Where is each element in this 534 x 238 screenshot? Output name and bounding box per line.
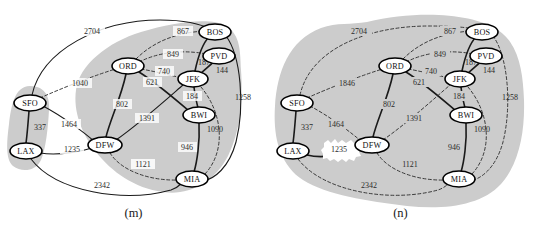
- weight-1258: 1258: [502, 93, 518, 102]
- svg-text:867: 867: [444, 27, 456, 36]
- cluster-all: [275, 15, 524, 208]
- svg-text:144: 144: [216, 66, 228, 75]
- weight-740: 740: [422, 66, 441, 76]
- svg-text:1235: 1235: [331, 145, 347, 154]
- node-JFK[interactable]: JFK: [178, 71, 208, 87]
- weight-337: 337: [34, 123, 46, 132]
- svg-text:1235: 1235: [64, 145, 80, 154]
- node-ORD[interactable]: ORD: [112, 58, 144, 74]
- svg-text:BOS: BOS: [207, 28, 224, 37]
- weight-621: 621: [410, 77, 429, 87]
- node-LAX[interactable]: LAX: [277, 143, 309, 159]
- node-JFK[interactable]: JFK: [445, 71, 475, 87]
- node-DFW[interactable]: DFW: [355, 137, 389, 153]
- weight-1391: 1391: [402, 113, 426, 123]
- svg-text:1391: 1391: [406, 114, 422, 123]
- graph-n: 2704 867 849 1846 740 621 187 144 184 12…: [267, 0, 534, 238]
- weight-2342: 2342: [356, 179, 382, 190]
- weight-1391: 1391: [135, 113, 159, 123]
- weight-802: 802: [113, 99, 132, 109]
- graph-m: 2704 867 849 1040 740 621 187 144 184 12…: [0, 0, 267, 238]
- weight-946: 946: [445, 142, 464, 152]
- node-DFW[interactable]: DFW: [88, 137, 122, 153]
- svg-text:849: 849: [434, 50, 446, 59]
- weight-184: 184: [450, 91, 469, 101]
- weight-1464: 1464: [324, 119, 348, 129]
- node-MIA[interactable]: MIA: [443, 171, 475, 187]
- weight-1090: 1090: [474, 125, 490, 134]
- svg-text:184: 184: [453, 92, 465, 101]
- weight-849: 849: [163, 49, 183, 59]
- weight-144: 144: [216, 66, 228, 75]
- node-LAX[interactable]: LAX: [10, 143, 42, 159]
- weight-2342: 2342: [89, 179, 115, 190]
- svg-text:849: 849: [167, 50, 179, 59]
- svg-text:1464: 1464: [328, 120, 344, 129]
- weight-621: 621: [143, 77, 162, 87]
- svg-text:1121: 1121: [135, 160, 151, 169]
- svg-text:144: 144: [483, 66, 495, 75]
- svg-text:JFK: JFK: [186, 75, 200, 84]
- svg-text:2342: 2342: [361, 181, 377, 190]
- weight-337: 337: [301, 123, 313, 132]
- svg-text:DFW: DFW: [96, 141, 115, 150]
- node-BWI[interactable]: BWI: [450, 107, 482, 123]
- weight-2704: 2704: [79, 25, 105, 36]
- svg-text:946: 946: [181, 143, 193, 152]
- weight-1090: 1090: [207, 125, 223, 134]
- svg-text:1040: 1040: [72, 79, 88, 88]
- svg-text:1258: 1258: [235, 93, 251, 102]
- svg-text:1464: 1464: [61, 120, 77, 129]
- svg-text:1258: 1258: [502, 93, 518, 102]
- weight-946: 946: [178, 142, 197, 152]
- weight-1040: 1040: [68, 78, 92, 88]
- weight-1846: 1846: [335, 78, 359, 88]
- node-BOS[interactable]: BOS: [466, 24, 498, 40]
- weight-1121: 1121: [398, 159, 422, 169]
- weight-849: 849: [430, 49, 450, 59]
- panel-n: 2704 867 849 1846 740 621 187 144 184 12…: [267, 0, 534, 238]
- svg-text:PVD: PVD: [211, 52, 228, 61]
- svg-text:802: 802: [116, 100, 128, 109]
- svg-text:BWI: BWI: [191, 111, 208, 120]
- svg-text:337: 337: [34, 123, 46, 132]
- cluster-group-n: [275, 15, 524, 208]
- weight-1258: 1258: [235, 93, 251, 102]
- weight-867: 867: [173, 26, 193, 36]
- node-BWI[interactable]: BWI: [183, 107, 215, 123]
- svg-text:LAX: LAX: [17, 147, 34, 156]
- node-PVD[interactable]: PVD: [470, 48, 502, 64]
- node-SFO[interactable]: SFO: [281, 95, 313, 111]
- svg-text:946: 946: [448, 143, 460, 152]
- weight-802: 802: [380, 99, 399, 109]
- svg-text:2704: 2704: [351, 27, 367, 36]
- weight-144: 144: [483, 66, 495, 75]
- svg-text:740: 740: [158, 67, 170, 76]
- svg-text:2704: 2704: [84, 27, 100, 36]
- node-BOS[interactable]: BOS: [199, 24, 231, 40]
- svg-text:2342: 2342: [94, 181, 110, 190]
- svg-text:JFK: JFK: [453, 75, 467, 84]
- node-PVD[interactable]: PVD: [203, 48, 235, 64]
- svg-text:1121: 1121: [402, 160, 418, 169]
- cluster-main: [75, 21, 241, 192]
- weight-184: 184: [183, 91, 202, 101]
- svg-text:ORD: ORD: [386, 62, 404, 71]
- svg-text:337: 337: [301, 123, 313, 132]
- svg-text:184: 184: [186, 92, 198, 101]
- svg-text:PVD: PVD: [478, 52, 495, 61]
- figure-root: 2704 867 849 1040 740 621 187 144 184 12…: [0, 0, 534, 238]
- weight-867: 867: [440, 26, 460, 36]
- svg-text:1846: 1846: [339, 79, 355, 88]
- svg-text:802: 802: [383, 100, 395, 109]
- node-MIA[interactable]: MIA: [176, 171, 208, 187]
- svg-text:621: 621: [146, 78, 158, 87]
- weight-1235: 1235: [60, 144, 84, 154]
- node-ORD[interactable]: ORD: [379, 58, 411, 74]
- svg-text:DFW: DFW: [363, 141, 382, 150]
- svg-text:1391: 1391: [139, 114, 155, 123]
- svg-text:BOS: BOS: [474, 28, 491, 37]
- svg-text:740: 740: [425, 67, 437, 76]
- panel-m: 2704 867 849 1040 740 621 187 144 184 12…: [0, 0, 267, 238]
- node-SFO[interactable]: SFO: [14, 95, 46, 111]
